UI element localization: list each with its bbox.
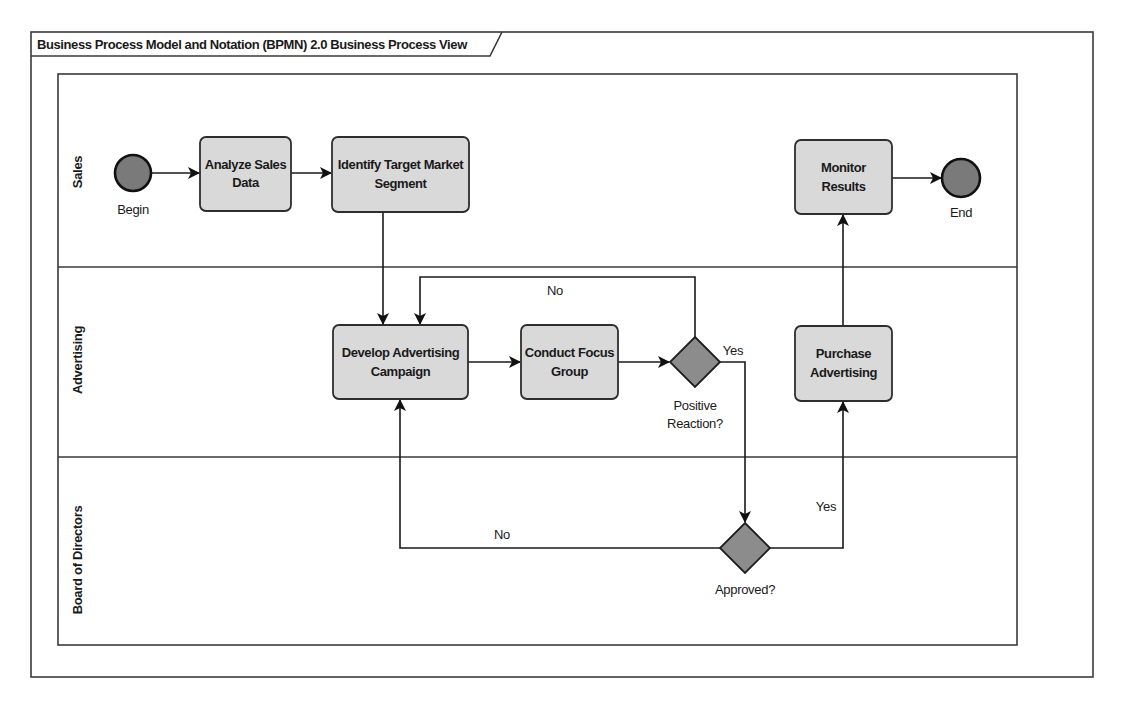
task-develop-advertising-campaign[interactable]: Develop Advertising Campaign — [333, 325, 468, 399]
task-box[interactable] — [333, 325, 468, 399]
gateway-diamond-icon[interactable] — [720, 523, 770, 573]
gateway-approved[interactable]: Approved? — [715, 523, 775, 597]
end-event-circle-icon[interactable] — [942, 159, 980, 197]
task-label-line1: Monitor — [821, 160, 866, 175]
flow-label-approved-yes: Yes — [816, 499, 837, 514]
lane-label-sales: Sales — [70, 156, 85, 189]
task-box[interactable] — [332, 137, 469, 212]
task-label-line1: Identify Target Market — [338, 157, 464, 172]
flow-label-approved-no: No — [494, 527, 510, 542]
lane-advertising: Advertising — [70, 326, 85, 395]
task-label-line1: Analyze Sales — [205, 157, 287, 172]
gateway-diamond-icon[interactable] — [670, 337, 720, 387]
end-event[interactable]: End — [942, 159, 980, 220]
flow-positive-yes-to-approved[interactable] — [720, 362, 745, 522]
start-event-label: Begin — [117, 202, 149, 217]
end-event-label: End — [950, 205, 972, 220]
gateway-label-line2: Reaction? — [667, 416, 723, 431]
task-label-line2: Results — [821, 179, 865, 194]
lane-label-advertising: Advertising — [70, 326, 85, 395]
task-label-line2: Campaign — [371, 364, 431, 379]
gateway-positive-reaction[interactable]: Positive Reaction? — [667, 337, 723, 431]
task-label-line1: Develop Advertising — [342, 345, 460, 360]
task-analyze-sales-data[interactable]: Analyze Sales Data — [200, 137, 291, 211]
gateway-label-line1: Positive — [673, 398, 716, 413]
flow-label-positive-no: No — [547, 283, 563, 298]
task-purchase-advertising[interactable]: Purchase Advertising — [795, 326, 892, 401]
flow-label-positive-yes: Yes — [723, 343, 744, 358]
start-event-circle-icon[interactable] — [115, 155, 151, 191]
task-label-line2: Segment — [374, 176, 427, 191]
task-label-line2: Advertising — [810, 365, 878, 380]
task-label-line1: Purchase — [816, 346, 872, 361]
task-label-line2: Data — [232, 175, 260, 190]
task-label-line2: Group — [551, 364, 588, 379]
lane-board-of-directors: Board of Directors — [70, 506, 85, 615]
task-monitor-results[interactable]: Monitor Results — [795, 140, 892, 214]
frame-title: Business Process Model and Notation (BPM… — [37, 37, 468, 52]
lane-sales: Sales — [70, 156, 85, 189]
start-event[interactable]: Begin — [115, 155, 151, 217]
flow-approved-yes-to-purchase[interactable] — [770, 402, 843, 548]
gateway-label: Approved? — [715, 582, 775, 597]
lane-label-board: Board of Directors — [70, 506, 85, 615]
task-box[interactable] — [521, 325, 618, 399]
task-box[interactable] — [795, 326, 892, 401]
task-conduct-focus-group[interactable]: Conduct Focus Group — [521, 325, 618, 399]
task-label-line1: Conduct Focus — [525, 345, 615, 360]
task-box[interactable] — [200, 137, 291, 211]
task-box[interactable] — [795, 140, 892, 214]
bpmn-diagram: Business Process Model and Notation (BPM… — [0, 0, 1121, 703]
flow-labels: No Yes No Yes — [494, 283, 837, 542]
task-identify-target-market[interactable]: Identify Target Market Segment — [332, 137, 469, 212]
